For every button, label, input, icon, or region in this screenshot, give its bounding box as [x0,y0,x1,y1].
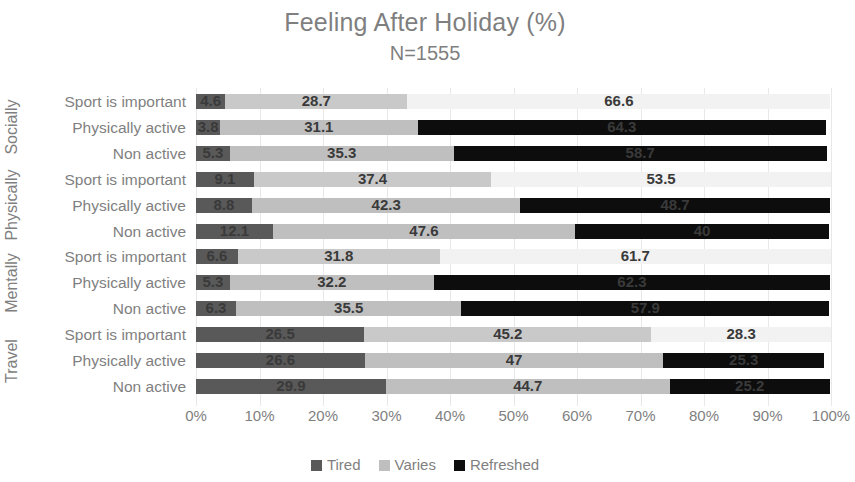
x-axis-tick-label: 50% [479,406,549,426]
bar-value-label: 26.6 [196,350,365,370]
category-label: Sport is important [26,170,186,189]
group-axis: SociallyPhysicallyMentallyTravel [0,88,26,406]
x-axis-tick-label: 90% [733,406,803,426]
bar-segment-varies: 47 [365,353,663,368]
legend-label: Refreshed [470,456,539,474]
x-axis-tick-label: 80% [669,406,739,426]
bar-row: 26.545.228.3 [196,327,831,342]
bar-row: 6.631.861.7 [196,249,831,264]
bar-segment-varies: 37.4 [254,172,491,187]
category-axis: Sport is importantPhysically activeNon a… [26,88,192,406]
bar-segment-refreshed: 40 [575,224,829,239]
x-axis-tick-label: 30% [352,406,422,426]
bar-value-label: 28.3 [651,324,831,344]
chart-title-block: Feeling After Holiday (%) N=1555 [0,6,850,66]
x-axis-tick-label: 70% [606,406,676,426]
category-label: Non active [26,299,186,318]
bar-segment-varies: 31.8 [238,249,440,264]
bars-canvas: 4.628.766.63.831.164.35.335.358.79.137.4… [196,88,831,406]
bar-value-label: 58.7 [454,143,827,163]
x-axis: 0%10%20%30%40%50%60%70%80%90%100% [196,406,831,428]
category-label: Sport is important [26,247,186,266]
bar-value-label: 64.3 [418,117,826,137]
bar-segment-varies: 35.3 [230,146,454,161]
bar-value-label: 25.2 [670,376,830,396]
category-label: Physically active [26,351,186,370]
bar-segment-tired: 12.1 [196,224,273,239]
bar-row: 5.335.358.7 [196,146,831,161]
bar-row: 8.842.348.7 [196,198,831,213]
bar-value-label: 32.2 [230,272,434,292]
legend-swatch-icon [454,460,465,471]
bar-segment-tired: 26.5 [196,327,364,342]
bar-segment-tired: 5.3 [196,275,230,290]
bar-row: 6.335.557.9 [196,301,831,316]
x-axis-tick-label: 100% [796,406,855,426]
legend-item-tired[interactable]: Tired [311,456,361,474]
bar-value-label: 31.8 [238,246,440,266]
bar-segment-varies: 47.6 [273,224,575,239]
category-label: Sport is important [26,92,186,111]
legend-label: Varies [395,456,436,474]
bar-segment-varies: 44.7 [386,379,670,394]
bar-row: 12.147.640 [196,224,831,239]
x-axis-tick-label: 60% [542,406,612,426]
bar-segment-refreshed: 66.6 [407,94,830,109]
bar-segment-refreshed: 57.9 [461,301,829,316]
bar-value-label: 42.3 [252,195,521,215]
bar-segment-varies: 45.2 [364,327,651,342]
bar-segment-tired: 6.3 [196,301,236,316]
x-axis-tick-label: 40% [415,406,485,426]
bar-segment-refreshed: 62.3 [434,275,830,290]
bar-value-label: 25.3 [663,350,824,370]
chart-subtitle: N=1555 [0,40,850,66]
category-label: Non active [26,377,186,396]
bar-value-label: 28.7 [225,91,407,111]
bar-row: 26.64725.3 [196,353,831,368]
bar-row: 5.332.262.3 [196,275,831,290]
bar-value-label: 3.8 [196,117,220,137]
bar-segment-refreshed: 64.3 [418,120,826,135]
bar-segment-tired: 29.9 [196,379,386,394]
bar-segment-varies: 28.7 [225,94,407,109]
page-title: Feeling After Holiday (%) [0,6,850,38]
legend-item-varies[interactable]: Varies [379,456,436,474]
bar-segment-refreshed: 28.3 [651,327,831,342]
category-label: Non active [26,222,186,241]
bar-value-label: 4.6 [196,91,225,111]
category-label: Physically active [26,196,186,215]
bar-segment-tired: 4.6 [196,94,225,109]
bar-value-label: 31.1 [220,117,417,137]
bar-value-label: 6.6 [196,246,238,266]
category-label: Non active [26,144,186,163]
bar-segment-varies: 32.2 [230,275,434,290]
x-axis-tick-label: 0% [161,406,231,426]
bar-segment-refreshed: 53.5 [491,172,831,187]
bar-value-label: 35.3 [230,143,454,163]
category-label: Physically active [26,118,186,137]
bar-segment-varies: 31.1 [220,120,417,135]
bar-value-label: 26.5 [196,324,364,344]
bar-value-label: 40 [575,221,829,241]
category-label: Sport is important [26,325,186,344]
plot-area: SociallyPhysicallyMentallyTravel Sport i… [0,88,850,418]
bar-row: 3.831.164.3 [196,120,831,135]
bar-segment-varies: 35.5 [236,301,461,316]
bar-row: 9.137.453.5 [196,172,831,187]
legend-swatch-icon [311,460,322,471]
legend-item-refreshed[interactable]: Refreshed [454,456,539,474]
bar-value-label: 45.2 [364,324,651,344]
chart-legend: TiredVariesRefreshed [0,456,850,474]
bar-value-label: 53.5 [491,169,831,189]
bar-value-label: 5.3 [196,272,230,292]
legend-swatch-icon [379,460,390,471]
bar-segment-tired: 6.6 [196,249,238,264]
bar-value-label: 8.8 [196,195,252,215]
bar-row: 4.628.766.6 [196,94,831,109]
bar-segment-varies: 42.3 [252,198,521,213]
group-axis-label-travel: Travel [3,309,21,413]
bar-value-label: 47.6 [273,221,575,241]
bar-segment-tired: 26.6 [196,353,365,368]
bar-segment-tired: 9.1 [196,172,254,187]
